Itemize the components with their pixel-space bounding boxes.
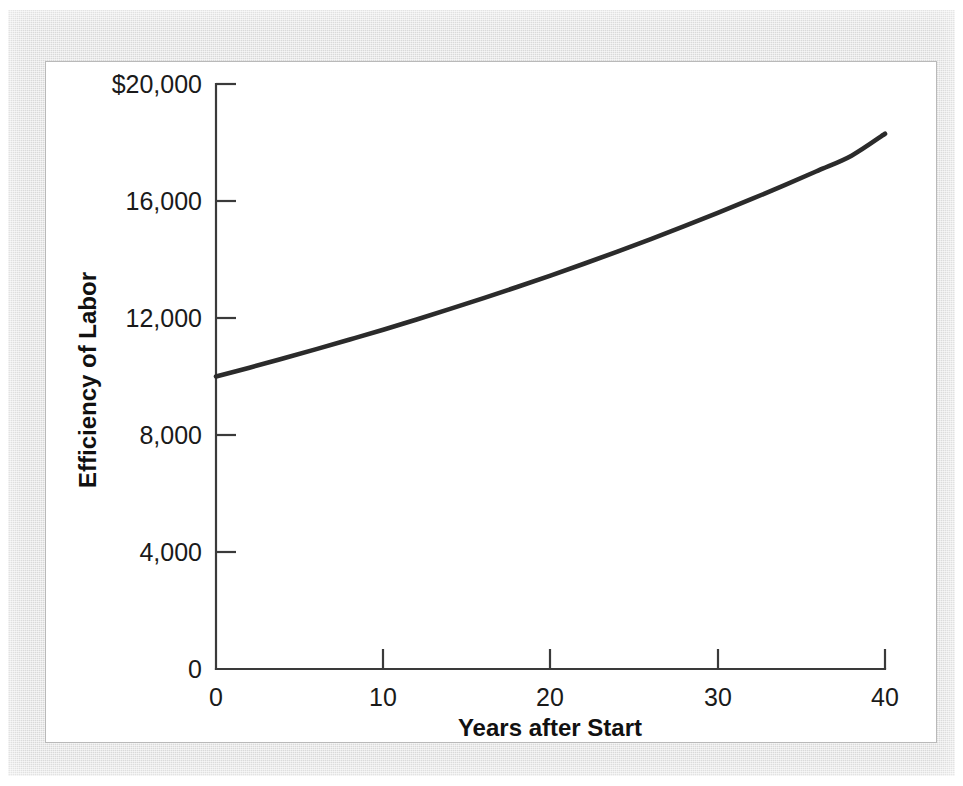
y-axis-ticks [216,84,236,552]
y-tick-label-16000: 16,000 [126,187,202,215]
y-axis-title: Efficiency of Labor [74,272,101,488]
x-axis-tick-labels: 0 10 20 30 40 [209,683,899,711]
y-tick-label-0: 0 [188,655,202,683]
x-tick-label-40: 40 [871,683,899,711]
y-tick-label-20000: $20,000 [112,70,202,98]
efficiency-of-labor-curve [216,134,885,377]
y-tick-label-12000: 12,000 [126,304,202,332]
y-tick-label-8000: 8,000 [139,421,202,449]
x-axis-ticks [383,649,885,669]
chart-svg: $20,000 16,000 12,000 8,000 4,000 0 [0,0,963,786]
x-tick-label-30: 30 [704,683,732,711]
chart-page: $20,000 16,000 12,000 8,000 4,000 0 [0,0,963,786]
x-tick-label-20: 20 [536,683,564,711]
x-tick-label-10: 10 [369,683,397,711]
x-tick-label-0: 0 [209,683,223,711]
y-tick-label-4000: 4,000 [139,538,202,566]
y-axis-tick-labels: $20,000 16,000 12,000 8,000 4,000 0 [112,70,202,683]
x-axis-title: Years after Start [458,714,642,741]
